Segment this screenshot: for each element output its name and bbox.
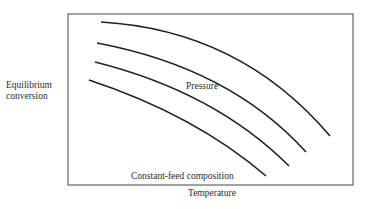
curve-1	[101, 22, 330, 136]
curve-3	[95, 62, 289, 166]
feed-composition-annotation: Constant-feed composition	[131, 171, 234, 181]
y-axis-label-line1: Equilibrium	[6, 80, 66, 91]
y-axis-label-line2: conversion	[6, 91, 66, 102]
x-axis-label: Temperature	[188, 188, 236, 198]
plot-frame	[68, 14, 353, 185]
pressure-annotation: Pressure	[186, 81, 218, 91]
y-axis-label: Equilibrium conversion	[6, 80, 66, 102]
curve-2	[97, 43, 306, 152]
curve-4	[89, 80, 266, 176]
